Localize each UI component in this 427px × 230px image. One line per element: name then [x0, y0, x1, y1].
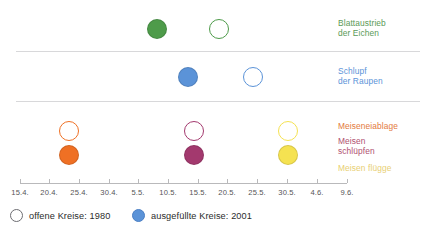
open-circle-icon — [10, 209, 23, 222]
axis-tick-label-10: 4.6. — [310, 188, 323, 197]
axis-tick-label-0: 15.4. — [11, 188, 28, 197]
axis-tick-label-2: 25.4. — [70, 188, 87, 197]
phenology-chart: Blattaustrieb der EichenSchlupf der Raup… — [0, 0, 427, 230]
axis-tick-3 — [109, 179, 110, 183]
legend-filled-label: ausgefüllte Kreise: 2001 — [151, 211, 252, 221]
axis-tick-label-9: 30.5. — [278, 188, 295, 197]
data-point-open-meisen-flügge[interactable] — [278, 121, 298, 141]
data-point-filled-meisen-schlüpfen[interactable] — [184, 145, 204, 165]
axis-tick-label-5: 10.5. — [159, 188, 176, 197]
axis-tick-0 — [20, 179, 21, 183]
axis-tick-7 — [227, 179, 228, 183]
axis-tick-4 — [138, 179, 139, 183]
data-point-open-meiseneiablage[interactable] — [59, 121, 79, 141]
axis-tick-6 — [198, 179, 199, 183]
axis-tick-1 — [49, 179, 50, 183]
axis-tick-label-8: 25.5. — [248, 188, 265, 197]
axis-tick-label-4: 5.5. — [131, 188, 144, 197]
data-point-filled-meiseneiablage[interactable] — [59, 145, 79, 165]
axis-tick-8 — [257, 179, 258, 183]
axis-tick-10 — [317, 179, 318, 183]
row-label-0: Blattaustrieb der Eichen — [338, 18, 386, 39]
axis-tick-9 — [287, 179, 288, 183]
axis-tick-label-6: 15.5. — [189, 188, 206, 197]
data-point-filled-schlupf-der-raupen[interactable] — [178, 67, 198, 87]
x-axis-line — [20, 183, 347, 184]
data-point-filled-blattaustrieb-der-eichen[interactable] — [147, 19, 167, 39]
axis-tick-label-1: 20.4. — [40, 188, 57, 197]
data-point-open-meisen-schlüpfen[interactable] — [184, 121, 204, 141]
row-label-1: Schlupf der Raupen — [338, 66, 383, 87]
row-label-4: Meisen flügge — [338, 163, 391, 173]
axis-tick-5 — [168, 179, 169, 183]
row-divider-1 — [16, 51, 420, 52]
data-point-open-schlupf-der-raupen[interactable] — [243, 67, 263, 87]
legend-open-label: offene Kreise: 1980 — [29, 211, 110, 221]
row-label-2: Meiseneiablage — [338, 121, 398, 131]
data-point-filled-meisen-flügge[interactable] — [278, 145, 298, 165]
filled-circle-icon — [132, 209, 145, 222]
legend-entry-filled[interactable]: ausgefüllte Kreise: 2001 — [132, 209, 252, 222]
legend-entry-open[interactable]: offene Kreise: 1980 — [10, 209, 110, 222]
axis-tick-2 — [79, 179, 80, 183]
axis-tick-label-3: 30.4. — [100, 188, 117, 197]
axis-tick-11 — [347, 179, 348, 183]
row-label-3: Meisen schlüpfen — [338, 136, 375, 157]
axis-tick-label-11: 9.6. — [340, 188, 353, 197]
row-divider-2 — [16, 101, 420, 102]
data-point-open-blattaustrieb-der-eichen[interactable] — [209, 19, 229, 39]
axis-tick-label-7: 20.5. — [218, 188, 235, 197]
